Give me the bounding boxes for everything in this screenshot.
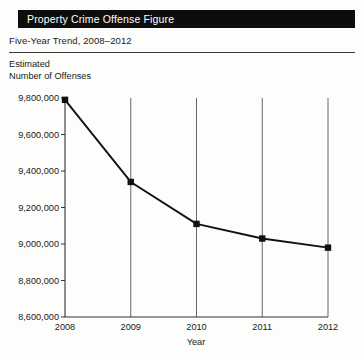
chart-gridlines bbox=[131, 98, 328, 317]
data-point-2011 bbox=[259, 235, 265, 241]
y-tick-label-9600000: 9,600,000 bbox=[3, 130, 59, 140]
y-tick-label-8800000: 8,800,000 bbox=[3, 276, 59, 286]
x-tick-label-2008: 2008 bbox=[42, 322, 88, 332]
x-axis-title: Year bbox=[187, 337, 206, 347]
chart-svg bbox=[0, 0, 364, 360]
data-point-2012 bbox=[325, 244, 331, 250]
y-tick-label-9200000: 9,200,000 bbox=[3, 203, 59, 213]
y-tick-label-9000000: 9,000,000 bbox=[3, 239, 59, 249]
x-tick-label-2012: 2012 bbox=[305, 322, 351, 332]
y-tick-label-9800000: 9,800,000 bbox=[3, 93, 59, 103]
x-tick-label-2011: 2011 bbox=[239, 322, 285, 332]
y-tick-label-9400000: 9,400,000 bbox=[3, 166, 59, 176]
y-tick-label-8600000: 8,600,000 bbox=[3, 312, 59, 322]
data-point-2008 bbox=[62, 97, 68, 103]
figure-container: Property Crime Offense Figure Five-Year … bbox=[0, 0, 364, 360]
data-point-2009 bbox=[128, 179, 134, 185]
plot-area: 8,600,0008,800,0009,000,0009,200,0009,40… bbox=[0, 0, 364, 360]
data-point-2010 bbox=[193, 221, 199, 227]
chart-y-tickmarks bbox=[61, 98, 65, 317]
x-tick-label-2009: 2009 bbox=[108, 322, 154, 332]
x-tick-label-2010: 2010 bbox=[174, 322, 220, 332]
